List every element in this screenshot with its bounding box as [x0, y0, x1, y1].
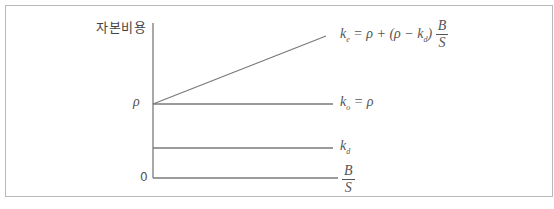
ke-line [153, 36, 326, 104]
rho-tick-label: ρ [133, 94, 140, 110]
origin-label: 0 [140, 170, 148, 184]
y-axis-label: 자본비용 [96, 17, 146, 36]
ko-label: ko = ρ [340, 94, 373, 112]
ke-fraction: B S [436, 18, 449, 51]
chart-lines [0, 0, 554, 209]
kd-label: kd [340, 138, 350, 156]
ke-label: ke = ρ + (ρ − kd) B S [340, 18, 448, 51]
x-axis-label: B S [342, 163, 355, 196]
